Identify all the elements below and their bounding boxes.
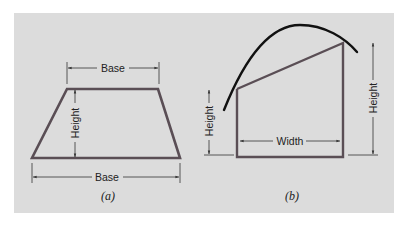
width-dimension: Width bbox=[240, 135, 340, 147]
right-height-label: Height bbox=[367, 83, 379, 113]
top-base-label: Base bbox=[101, 62, 125, 74]
trapezoid-shape bbox=[32, 89, 180, 158]
bottom-base-label: Base bbox=[95, 171, 119, 183]
function-curve bbox=[224, 25, 357, 110]
bottom-base-dimension: Base bbox=[32, 163, 180, 183]
top-base-dimension: Base bbox=[67, 62, 159, 84]
width-label: Width bbox=[277, 135, 304, 147]
figure-svg: Base Height Base (a) Height bbox=[0, 0, 405, 230]
trapezoid-height-dimension: Height bbox=[69, 90, 81, 157]
caption-b: (b) bbox=[285, 189, 299, 203]
panel-a: Base Height Base (a) bbox=[32, 62, 180, 203]
right-height-dimension: Height bbox=[348, 43, 379, 155]
trapezoid-height-label: Height bbox=[69, 108, 81, 138]
panel-b: Height Width Height (b) bbox=[203, 25, 379, 203]
left-height-label: Height bbox=[203, 106, 215, 136]
caption-a: (a) bbox=[101, 189, 115, 203]
